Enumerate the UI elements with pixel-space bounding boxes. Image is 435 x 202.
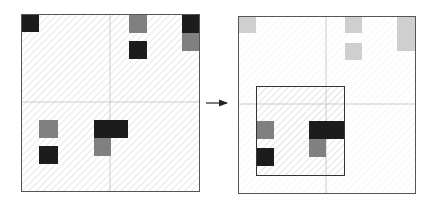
cropped-grid-panel	[238, 16, 416, 194]
grid-cell-mid	[256, 121, 274, 139]
grid-cell-mid	[94, 138, 111, 156]
grid-cell-dark	[39, 146, 58, 164]
grid-cell-light	[345, 16, 362, 33]
grid-cell-light	[397, 16, 415, 51]
grid-cell-dark	[182, 15, 199, 33]
grid-cell-mid	[309, 139, 326, 157]
grid-cell-mid	[39, 120, 58, 138]
grid-cell-mid	[182, 33, 199, 51]
grid-cell-light	[238, 16, 256, 33]
diagram-canvas	[0, 0, 435, 202]
grid-cell-dark	[94, 120, 128, 138]
grid-cell-dark	[129, 41, 147, 59]
grid-cell-mid	[129, 15, 147, 33]
grid-cell-light	[345, 43, 362, 60]
grid-cell-dark	[309, 121, 344, 139]
grid-cell-dark	[21, 14, 39, 32]
original-grid-panel	[21, 14, 200, 192]
grid-cell-dark	[256, 148, 274, 166]
